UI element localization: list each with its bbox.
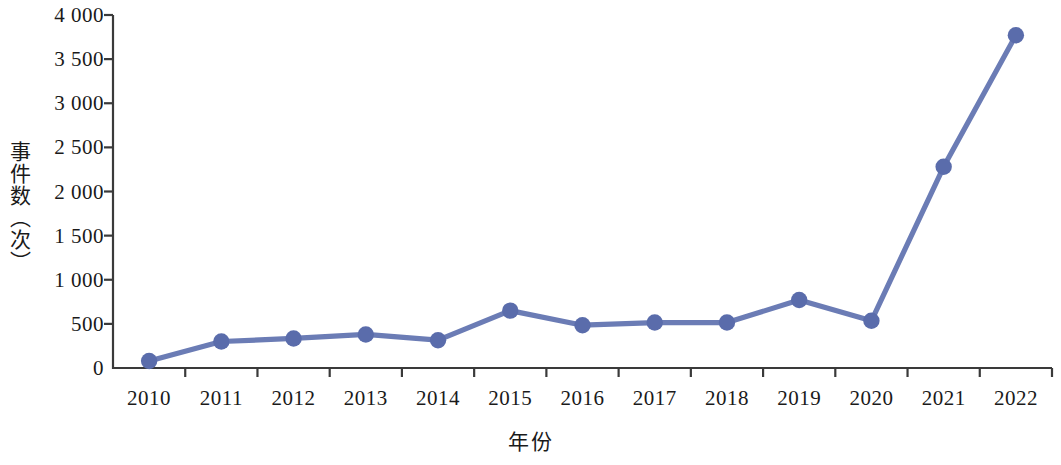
x-axis-tick-label: 2019 [777, 388, 821, 409]
x-axis-tick-label: 2013 [344, 388, 388, 409]
x-axis-tick-label: 2020 [849, 388, 893, 409]
x-axis-tick-label: 2015 [488, 388, 532, 409]
line-chart-figure: 事件数（次） 05001 0001 5002 0002 5003 0003 50… [0, 0, 1061, 465]
x-axis-title: 年份 [0, 425, 1061, 455]
x-axis-tick-label: 2010 [127, 388, 171, 409]
x-axis-tick-label: 2018 [705, 388, 749, 409]
x-axis-tick-label: 2016 [561, 388, 605, 409]
x-axis-tick-label: 2012 [272, 388, 316, 409]
x-axis-tick-label: 2022 [994, 388, 1038, 409]
x-axis-tick-label: 2017 [633, 388, 677, 409]
x-axis-tick-label: 2021 [922, 388, 966, 409]
x-axis-tick-labels: 2010201120122013201420152016201720182019… [0, 0, 1061, 465]
x-axis-tick-label: 2014 [416, 388, 460, 409]
x-axis-tick-label: 2011 [200, 388, 243, 409]
